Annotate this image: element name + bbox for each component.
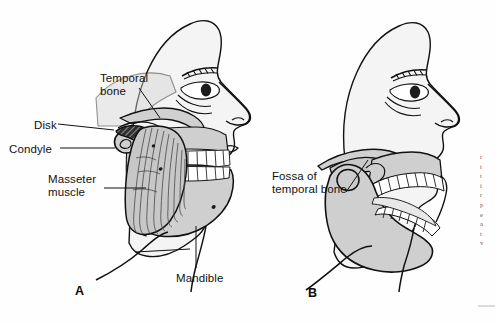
- adjacent-column-text-fragment: rttirpeatv: [480, 152, 494, 248]
- label-temporal-bone: Temporal bone: [100, 72, 148, 98]
- label-mandible: Mandible: [176, 272, 223, 285]
- label-disk: Disk: [34, 119, 57, 132]
- label-masseter-muscle: Masseter muscle: [48, 173, 96, 199]
- panel-letter-a: A: [75, 284, 84, 298]
- panel-a-illustration: [58, 21, 251, 292]
- label-fossa-of-temporal-bone: Fossa of temporal bone: [272, 170, 347, 196]
- anatomy-figure: Temporal bone Disk Condyle Masseter musc…: [0, 0, 495, 324]
- figure-illustration: [0, 0, 495, 324]
- panel-letter-b: B: [308, 286, 317, 300]
- label-condyle: Condyle: [9, 143, 52, 156]
- panel-b-illustration: [306, 23, 460, 292]
